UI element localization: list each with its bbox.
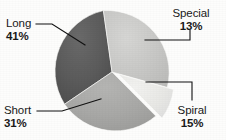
- pie-label-spiral-percent: 15%: [162, 117, 222, 130]
- pie-label-special-percent: 13%: [160, 20, 222, 33]
- pie-label-long-name: Long: [6, 17, 31, 30]
- pie-label-short-name: Short: [4, 104, 31, 117]
- pie-label-special-name: Special: [160, 7, 222, 20]
- pie-chart-figure: Long 41% Special 13% Spiral 15% Short 31…: [0, 0, 226, 140]
- pie-label-spiral-name: Spiral: [162, 104, 222, 117]
- pie-label-spiral: Spiral 15%: [162, 104, 222, 129]
- pie-label-long-percent: 41%: [6, 30, 31, 43]
- pie-label-long: Long 41%: [6, 17, 31, 42]
- pie-label-short: Short 31%: [4, 104, 31, 129]
- pie-label-special: Special 13%: [160, 7, 222, 32]
- pie-label-short-percent: 31%: [4, 117, 31, 130]
